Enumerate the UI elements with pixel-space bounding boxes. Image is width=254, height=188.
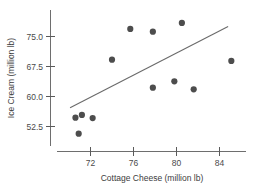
y-tick-label-2: 67.5 bbox=[26, 62, 43, 72]
plot-area: 75.0 67.5 60.0 52.5 72 76 80 84 Cottage … bbox=[0, 0, 254, 188]
y-tick-label-0: 52.5 bbox=[26, 122, 43, 132]
x-tick-label-0: 72 bbox=[86, 158, 96, 168]
data-point bbox=[171, 78, 177, 84]
data-point bbox=[109, 57, 115, 63]
data-points-group bbox=[72, 20, 234, 137]
y-tick-label-1: 60.0 bbox=[26, 92, 43, 102]
y-axis-title: Ice Cream (million lb) bbox=[6, 38, 16, 118]
data-point bbox=[191, 86, 197, 92]
data-point bbox=[228, 58, 234, 64]
x-tick-label-3: 84 bbox=[215, 158, 225, 168]
data-point bbox=[76, 131, 82, 137]
y-tick-label-3: 75.0 bbox=[26, 32, 43, 42]
scatter-chart: 75.0 67.5 60.0 52.5 72 76 80 84 Cottage … bbox=[0, 0, 254, 188]
regression-line bbox=[70, 27, 228, 108]
data-point bbox=[150, 85, 156, 91]
data-point bbox=[90, 115, 96, 121]
x-axis-title: Cottage Cheese (million lb) bbox=[101, 173, 204, 183]
data-point bbox=[150, 29, 156, 35]
data-point bbox=[179, 20, 185, 26]
data-point bbox=[127, 26, 133, 32]
data-point bbox=[79, 112, 85, 118]
x-tick-label-2: 80 bbox=[172, 158, 182, 168]
data-point bbox=[72, 115, 78, 121]
x-tick-label-1: 76 bbox=[129, 158, 139, 168]
